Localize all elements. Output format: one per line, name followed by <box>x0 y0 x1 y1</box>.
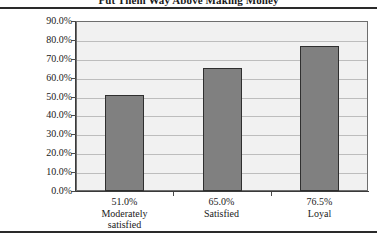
figure-bottom-rule <box>0 231 377 233</box>
y-axis-tick-label: 70.0% <box>4 54 72 64</box>
y-axis-tick <box>71 134 76 135</box>
bars-group <box>76 21 368 191</box>
bar <box>203 68 242 191</box>
y-axis-labels: 90.0%80.0%70.0%60.0%50.0%40.0%30.0%20.0%… <box>0 0 72 240</box>
category-name-line: Moderately <box>76 208 173 220</box>
y-axis-tick <box>71 115 76 116</box>
x-axis-tick <box>271 192 272 196</box>
bar-value-label: 65.0% <box>173 196 270 208</box>
y-axis-tick <box>71 191 76 192</box>
x-axis-line <box>76 191 369 192</box>
bar <box>300 46 339 191</box>
x-axis-category-label: 51.0%Moderatelysatisfied <box>76 196 173 231</box>
y-axis-tick-label: 50.0% <box>4 92 72 102</box>
y-axis-tick-label: 90.0% <box>4 16 72 26</box>
y-axis-tick <box>71 97 76 98</box>
category-name-line: Loyal <box>271 208 368 220</box>
x-axis-tick <box>173 192 174 196</box>
y-axis-tick-label: 60.0% <box>4 73 72 83</box>
x-axis-category-label: 65.0%Satisfied <box>173 196 270 219</box>
y-axis-tick-label: 40.0% <box>4 110 72 120</box>
y-axis-tick <box>71 153 76 154</box>
chart-figure: Put Them Way Above Making Money 90.0%80.… <box>0 0 377 240</box>
y-axis-tick-label: 80.0% <box>4 35 72 45</box>
y-axis-tick-label: 20.0% <box>4 148 72 158</box>
y-axis-tick <box>71 40 76 41</box>
y-axis-tick <box>71 21 76 22</box>
x-axis-category-label: 76.5%Loyal <box>271 196 368 219</box>
category-name-line: satisfied <box>76 219 173 231</box>
y-axis-tick-label: 30.0% <box>4 129 72 139</box>
y-axis-tick <box>71 59 76 60</box>
y-axis-tick-label: 0.0% <box>4 186 72 196</box>
bar-value-label: 51.0% <box>76 196 173 208</box>
bar <box>105 95 144 191</box>
y-axis-tick <box>71 172 76 173</box>
category-name-line: Satisfied <box>173 208 270 220</box>
bar-value-label: 76.5% <box>271 196 368 208</box>
y-axis-tick <box>71 78 76 79</box>
y-axis-tick-label: 10.0% <box>4 167 72 177</box>
